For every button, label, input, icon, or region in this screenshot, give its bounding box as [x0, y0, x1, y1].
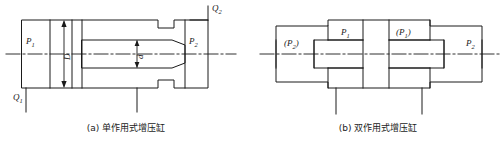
caption-panel-a: (a) 单作用式增压缸	[0, 121, 252, 134]
figure-container: P1 P2 Q1 Q2 D d (P2) P1 (P1) P2 (a) 单作用式…	[0, 0, 504, 144]
label-p2-right-panel-b: P2	[466, 38, 475, 50]
caption-panel-b: (b) 双作用式增压缸	[252, 121, 504, 134]
dim-D-arrow-top	[61, 20, 66, 27]
label-diameter-D: D	[62, 54, 72, 61]
label-p1-panel-a: P1	[26, 36, 35, 48]
label-diameter-d: d	[135, 55, 145, 60]
label-p1-left-panel-b: P1	[341, 27, 350, 39]
dim-D-arrow-bottom	[61, 81, 66, 88]
dim-d-arrow-bottom	[135, 62, 140, 68]
label-p1-right-panel-b: (P1)	[396, 27, 411, 39]
label-p2-left-panel-b: (P2)	[284, 38, 299, 50]
dim-d-arrow-top	[135, 40, 140, 46]
label-q1-panel-a: Q1	[13, 92, 23, 104]
label-p2-panel-a: P2	[189, 36, 198, 48]
label-q2-panel-a: Q2	[212, 3, 222, 15]
